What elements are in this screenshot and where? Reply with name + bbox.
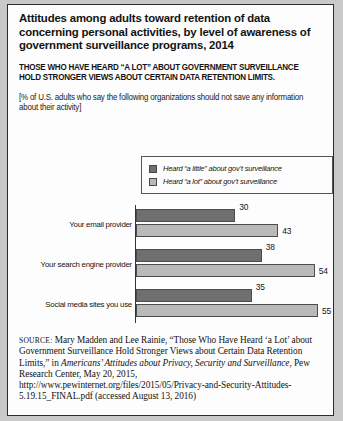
chart-group-search-engine-provider: Your search engine provider 38 54: [8, 247, 334, 283]
bar-value-0-a-lot: 43: [282, 226, 291, 236]
page-title: Attitudes among adults toward retention …: [19, 12, 324, 53]
figure-subtitle: THOSE WHO HAVE HEARD “A LOT” ABOUT GOVER…: [19, 62, 312, 83]
figure-note: [% of U.S. adults who say the following …: [19, 93, 315, 114]
legend-item-a-little: Heard “a little” about gov’t surveillanc…: [149, 162, 326, 175]
bar-2-a-lot: [136, 304, 318, 317]
bar-value-1-a-lot: 54: [319, 266, 328, 276]
chart-group-email-provider: Your email provider 30 43: [8, 207, 334, 243]
legend-item-a-lot: Heard “a lot” about gov’t surveillance: [149, 175, 326, 188]
legend-swatch-a-little: [149, 165, 157, 173]
bar-chart: Your email provider 30 43 Your search en…: [8, 201, 334, 327]
bar-value-2-a-lot: 55: [322, 306, 331, 316]
bar-value-0-a-little: 30: [239, 202, 248, 212]
bar-2-a-little: [136, 289, 252, 302]
legend-label-a-lot: Heard “a lot” about gov’t surveillance: [163, 177, 277, 186]
legend-swatch-a-lot: [149, 178, 157, 186]
category-label-0: Your email provider: [7, 220, 132, 229]
chart-group-social-media: Social media sites you use 35 55: [8, 287, 334, 323]
bar-0-a-little: [136, 209, 235, 222]
source-publication: Americans’ Attitudes about Privacy, Secu…: [61, 358, 289, 368]
category-label-1: Your search engine provider: [7, 260, 132, 269]
chart-legend: Heard “a little” about gov’t surveillanc…: [141, 156, 333, 194]
bar-value-2-a-little: 35: [256, 282, 265, 292]
figure-page: Attitudes among adults toward retention …: [7, 4, 334, 416]
source-citation: SOURCE: Mary Madden and Lee Rainie, “Tho…: [19, 335, 319, 403]
category-label-2: Social media sites you use: [7, 300, 132, 309]
bar-0-a-lot: [136, 224, 278, 237]
bar-1-a-little: [136, 249, 262, 262]
figure-header: Attitudes among adults toward retention …: [19, 12, 324, 114]
bar-value-1-a-little: 38: [266, 242, 275, 252]
bar-1-a-lot: [136, 264, 315, 277]
legend-label-a-little: Heard “a little” about gov’t surveillanc…: [163, 164, 282, 173]
source-prefix: SOURCE:: [19, 336, 52, 345]
